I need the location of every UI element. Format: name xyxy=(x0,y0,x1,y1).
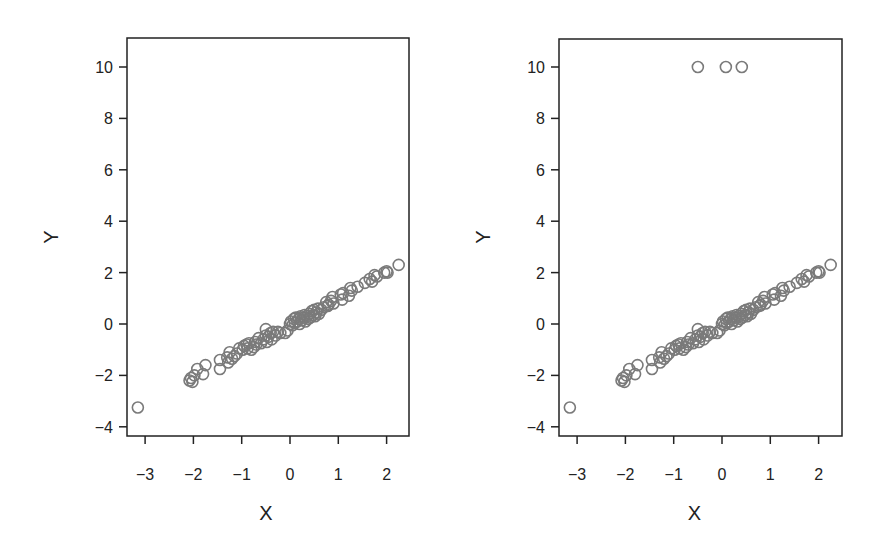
x-tick-label: −1 xyxy=(665,466,683,483)
y-tick-label: 6 xyxy=(104,162,113,179)
data-point xyxy=(564,402,575,413)
y-axis-title: Y xyxy=(472,230,494,243)
plot-frame xyxy=(127,38,409,436)
x-tick-label: 1 xyxy=(334,466,343,483)
y-tick-label: 8 xyxy=(536,110,545,127)
figure: −4−20246810−3−2−1012XY −4−20246810−3−2−1… xyxy=(0,0,882,546)
y-tick-label: −4 xyxy=(95,419,113,436)
x-tick-label: −3 xyxy=(136,466,154,483)
y-tick-label: 0 xyxy=(104,316,113,333)
x-tick-label: −3 xyxy=(568,466,586,483)
data-point xyxy=(132,402,143,413)
x-tick-label: −2 xyxy=(184,466,202,483)
data-point xyxy=(720,62,731,73)
y-tick-label: 4 xyxy=(536,213,545,230)
plot-frame xyxy=(559,39,842,436)
y-axis-title: Y xyxy=(40,230,62,243)
right-scatter-panel: −4−20246810−3−2−1012XY xyxy=(472,39,842,524)
y-tick-label: −4 xyxy=(527,419,545,436)
data-point xyxy=(825,259,836,270)
y-tick-label: 10 xyxy=(95,59,113,76)
x-axis-title: X xyxy=(259,502,272,524)
x-tick-label: 2 xyxy=(382,466,391,483)
y-tick-label: 4 xyxy=(104,213,113,230)
x-tick-label: −2 xyxy=(616,466,634,483)
data-point xyxy=(692,62,703,73)
y-tick-label: −2 xyxy=(527,367,545,384)
x-tick-label: −1 xyxy=(233,466,251,483)
x-tick-label: 2 xyxy=(814,466,823,483)
data-point xyxy=(393,259,404,270)
y-tick-label: 2 xyxy=(536,265,545,282)
x-axis-title: X xyxy=(688,502,701,524)
x-tick-label: 1 xyxy=(766,466,775,483)
y-tick-label: 6 xyxy=(536,162,545,179)
data-point xyxy=(736,62,747,73)
y-tick-label: 2 xyxy=(104,265,113,282)
y-tick-label: 8 xyxy=(104,110,113,127)
left-scatter-panel: −4−20246810−3−2−1012XY xyxy=(40,38,409,524)
x-tick-label: 0 xyxy=(286,466,295,483)
y-tick-label: −2 xyxy=(95,367,113,384)
y-tick-label: 0 xyxy=(536,316,545,333)
y-tick-label: 10 xyxy=(527,59,545,76)
x-tick-label: 0 xyxy=(718,466,727,483)
